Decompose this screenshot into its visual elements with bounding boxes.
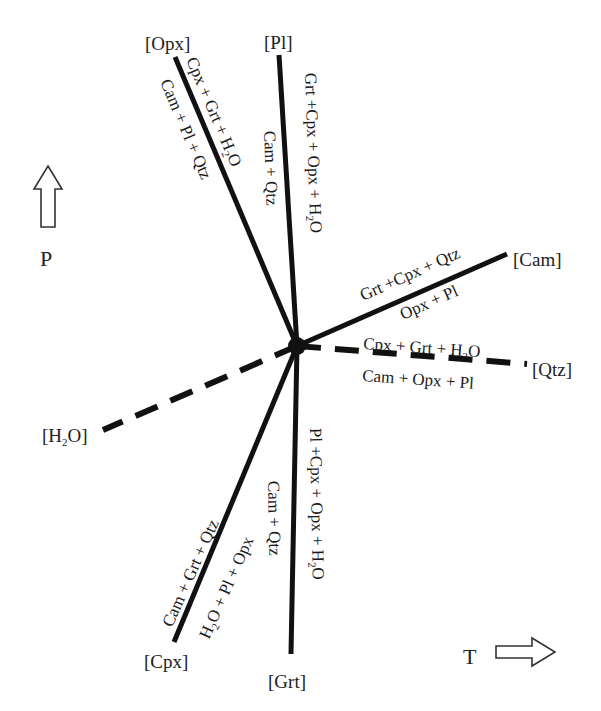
reaction-qtz-side-a: Cpx + Grt + H2O — [363, 334, 481, 363]
pressure-axis-label: P — [40, 246, 52, 271]
reaction-grt-side-b: Cam + Qtz — [264, 481, 284, 557]
label-qtz: [Qtz] — [532, 359, 572, 380]
label-opx: [Opx] — [145, 33, 190, 54]
temperature-arrow-icon — [496, 638, 555, 666]
petrogenetic-grid: [Opx] [Pl] [Cam] [Qtz] [H2O] [Cpx] [Grt]… — [0, 0, 601, 711]
reaction-qtz-side-b: Cam + Opx + Pl — [362, 366, 475, 393]
label-pl: [Pl] — [264, 32, 293, 53]
pressure-arrow-icon — [34, 166, 62, 227]
label-cam: [Cam] — [513, 249, 562, 270]
reaction-pl-side-b: Cam + Qtz — [260, 130, 282, 206]
label-cpx: [Cpx] — [144, 651, 188, 672]
label-grt: [Grt] — [268, 671, 306, 692]
invariant-point — [288, 337, 306, 355]
label-h2o: [H2O] — [42, 425, 88, 448]
reaction-pl-side-a: Grt +Cpx + Opx + H2O — [299, 72, 326, 233]
reaction-line-grt — [291, 346, 297, 654]
temperature-axis-label: T — [463, 644, 477, 669]
reaction-grt-side-a: Pl +Cpx + Opx + H2O — [304, 428, 328, 580]
